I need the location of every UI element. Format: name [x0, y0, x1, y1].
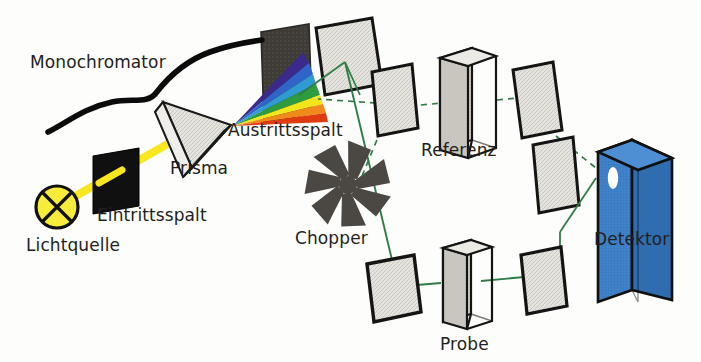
diagram-canvas: Monochromator Prisma Eintrittsspalt Lich…	[0, 0, 701, 362]
mirror-reference-out	[513, 62, 562, 138]
label-prisma: Prisma	[170, 158, 228, 178]
label-probe: Probe	[440, 334, 489, 354]
label-monochromator: Monochromator	[30, 52, 166, 72]
light-source-lamp	[36, 186, 78, 228]
mirror-detector-in	[533, 137, 579, 213]
mirror-reference-in	[372, 64, 418, 136]
label-referenz: Referenz	[421, 140, 497, 160]
spectrometer-diagram: Monochromator Prisma Eintrittsspalt Lich…	[0, 0, 701, 362]
detector-box	[598, 140, 672, 302]
label-detektor: Detektor	[594, 229, 669, 249]
label-eintrittsspalt: Eintrittsspalt	[97, 205, 207, 225]
label-lichtquelle: Lichtquelle	[26, 235, 120, 255]
mirror-sample-out	[521, 247, 567, 314]
label-chopper: Chopper	[295, 228, 368, 248]
mirror-sample-in	[367, 255, 421, 322]
label-austrittsspalt: Austrittsspalt	[228, 120, 343, 140]
